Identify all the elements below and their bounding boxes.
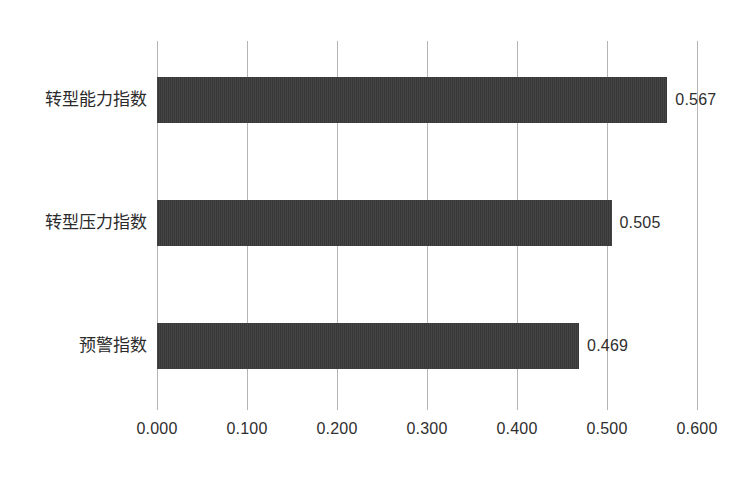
x-tick-label: 0.100: [207, 420, 287, 438]
category-label: 预警指数: [0, 323, 147, 369]
bar-value-label: 0.469: [587, 337, 628, 355]
bar[interactable]: [157, 323, 579, 369]
bar[interactable]: [157, 77, 667, 123]
bar[interactable]: [157, 200, 612, 246]
bar-chart: 0.5670.5050.469 转型能力指数转型压力指数预警指数 0.0000.…: [0, 0, 751, 484]
x-tick-label: 0.200: [297, 420, 377, 438]
x-tick-label: 0.500: [567, 420, 647, 438]
bar-value-label: 0.567: [675, 91, 716, 109]
x-tick-label: 0.300: [387, 420, 467, 438]
bar-value-label: 0.505: [620, 214, 661, 232]
bar-row: 0.505: [157, 200, 697, 246]
category-label: 转型能力指数: [0, 77, 147, 123]
category-label: 转型压力指数: [0, 200, 147, 246]
bar-row: 0.567: [157, 77, 697, 123]
x-tick-label: 0.400: [477, 420, 557, 438]
x-tick-label: 0.000: [117, 420, 197, 438]
x-tick-label: 0.600: [657, 420, 737, 438]
bar-row: 0.469: [157, 323, 697, 369]
